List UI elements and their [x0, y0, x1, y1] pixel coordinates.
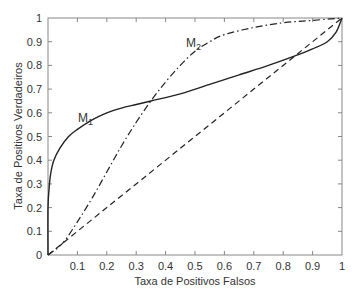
- y-tick-labels: 0 0.1 0.2 0.3 0.4 0.5 0.6 0.7 0.8 0.9 1: [27, 12, 42, 261]
- x-tick-label: 0.3: [129, 260, 144, 272]
- x-tick-labels: 0.1 0.2 0.3 0.4 0.5 0.6 0.7 0.8 0.9 1: [70, 260, 345, 272]
- x-tick-label: 0.2: [99, 260, 114, 272]
- y-axis-title: Taxa de Positivos Verdadeiros: [12, 62, 24, 210]
- y-tick-label: 0.1: [27, 225, 42, 237]
- y-tick-label: 0.7: [27, 83, 42, 95]
- m2-label-sub: 2: [196, 42, 201, 52]
- m2-label-main: M: [186, 36, 196, 50]
- x-tick-label: 0.7: [246, 260, 261, 272]
- random-diagonal-line: [48, 18, 342, 255]
- y-tick-label: 0.6: [27, 107, 42, 119]
- y-tick-label: 1: [36, 12, 42, 24]
- m1-label-sub: 1: [88, 117, 93, 127]
- roc-chart: 0 0.1 0.2 0.3 0.4 0.5 0.6 0.7 0.8 0.9 1 …: [0, 0, 357, 293]
- x-tick-label: 0.9: [305, 260, 320, 272]
- m2-label: M2: [186, 36, 201, 52]
- m1-label: M1: [78, 111, 93, 127]
- x-tick-label: 0.5: [187, 260, 202, 272]
- x-axis-title: Taxa de Positivos Falsos: [134, 275, 256, 287]
- y-tick-label: 0.2: [27, 202, 42, 214]
- y-tick-label: 0.4: [27, 154, 42, 166]
- x-tick-label: 0.6: [217, 260, 232, 272]
- y-tick-label: 0.5: [27, 131, 42, 143]
- y-tick-label: 0: [36, 249, 42, 261]
- x-tick-label: 0.1: [70, 260, 85, 272]
- x-tick-label: 0.8: [276, 260, 291, 272]
- y-tick-label: 0.9: [27, 36, 42, 48]
- x-tick-label: 0.4: [158, 260, 173, 272]
- y-tick-label: 0.3: [27, 178, 42, 190]
- y-tick-label: 0.8: [27, 59, 42, 71]
- m1-label-main: M: [78, 111, 88, 125]
- x-tick-label: 1: [339, 260, 345, 272]
